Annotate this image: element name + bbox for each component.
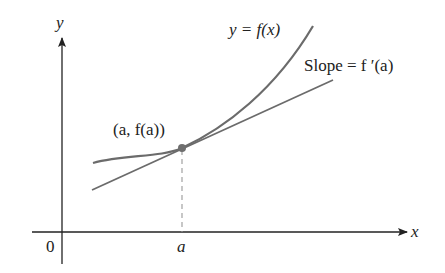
x-axis-label: x [410,222,419,241]
tangent-point [178,144,186,152]
function-curve [93,26,313,163]
slope-label: Slope = f ′(a) [304,56,393,75]
tangent-line-diagram: y x 0 a y = f(x) Slope = f ′(a) (a, f(a)… [0,0,445,273]
curve-label: y = f(x) [227,20,280,39]
y-axis-label: y [54,13,64,32]
origin-label: 0 [46,237,55,256]
a-tick-label: a [177,237,186,256]
point-label: (a, f(a)) [113,120,165,139]
